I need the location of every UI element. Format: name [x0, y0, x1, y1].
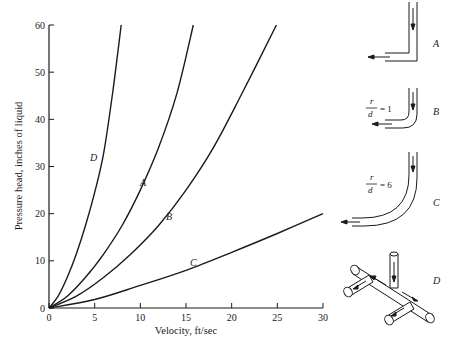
curve-label-b: B: [166, 211, 172, 222]
x-tick-label: 25: [272, 312, 282, 323]
curve-label-c: C: [190, 257, 197, 268]
ratio-c-value: = 6: [380, 180, 392, 190]
diagram-d-tee: [342, 252, 436, 326]
y-tick-label: 30: [35, 161, 45, 172]
y-tick-label: 0: [40, 303, 45, 314]
x-tick-label: 10: [135, 312, 145, 323]
diagram-label-c: C: [433, 197, 440, 208]
diagram-label-d: D: [432, 275, 441, 286]
chart-figure: 051015202530 0102030405060 Velocity, ft/…: [0, 0, 458, 352]
y-axis-title: Pressure head, inches of liquid: [13, 101, 24, 230]
curve-a: [49, 25, 193, 308]
y-tick-label: 50: [35, 67, 45, 78]
diagram-c-long-bend: [341, 152, 417, 226]
curve-c: [49, 214, 323, 308]
y-tick-label: 40: [35, 114, 45, 125]
x-tick-label: 15: [181, 312, 191, 323]
ratio-c-denominator: d: [368, 185, 373, 195]
curve-label-a: A: [139, 177, 147, 188]
x-tick-label: 5: [92, 312, 97, 323]
curve-label-d: D: [89, 152, 98, 163]
x-tick-label: 30: [318, 312, 328, 323]
ratio-b-denominator: d: [368, 109, 373, 119]
curve-b: [49, 25, 276, 308]
x-ticks: 051015202530: [47, 303, 329, 323]
x-tick-label: 0: [47, 312, 52, 323]
curve-d: [49, 25, 121, 308]
diagram-label-a: A: [432, 38, 440, 49]
x-tick-label: 20: [227, 312, 237, 323]
ratio-b-numerator: r: [370, 96, 374, 106]
y-tick-label: 60: [35, 20, 45, 31]
y-tick-label: 10: [35, 255, 45, 266]
diagram-b-short-bend: [372, 88, 417, 128]
ratio-b-value: = 1: [380, 104, 392, 114]
y-tick-label: 20: [35, 208, 45, 219]
y-ticks: 0102030405060: [35, 20, 54, 314]
ratio-c-numerator: r: [370, 172, 374, 182]
diagram-a-sharp-elbow: [368, 2, 417, 61]
axes: [49, 25, 323, 308]
x-axis-title: Velocity, ft/sec: [155, 325, 218, 336]
diagram-label-b: B: [433, 106, 439, 117]
curves: [49, 25, 323, 308]
